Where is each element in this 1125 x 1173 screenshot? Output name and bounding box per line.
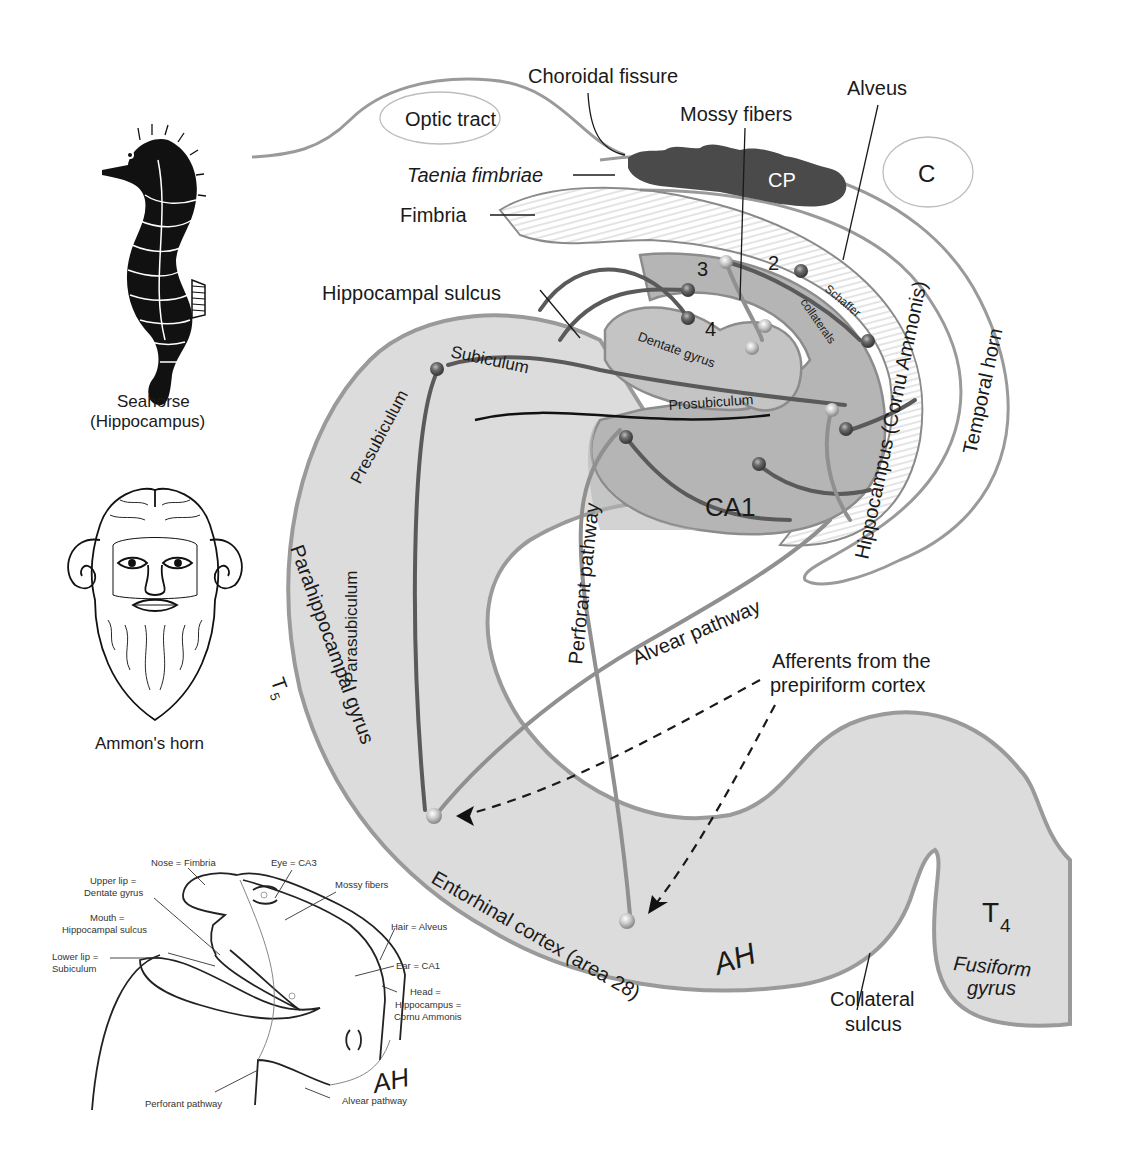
label-alvear-pathway: Alvear pathway <box>629 595 763 669</box>
face-label-alvear: Alvear pathway <box>342 1095 407 1106</box>
face-sketch-drawing: AH <box>92 873 412 1110</box>
ammon-face-icon <box>68 489 242 720</box>
face-label-head-3: Cornu Ammonis <box>394 1011 462 1022</box>
hippocampus-diagram: Choroidal fissure Optic tract Mossy fibe… <box>0 0 1125 1173</box>
face-label-mouth-1: Mouth = <box>90 912 125 923</box>
label-afferents-1: Afferents from the <box>772 650 931 672</box>
label-c: C <box>918 160 935 187</box>
label-temporal-horn: Temporal horn <box>958 326 1006 456</box>
face-label-mossy: Mossy fibers <box>335 879 389 890</box>
seahorse-caption-1: Seahorse <box>117 392 190 411</box>
label-ca1: CA1 <box>705 492 756 522</box>
label-field-3: 3 <box>697 258 708 280</box>
label-field-2: 2 <box>768 252 779 274</box>
svg-text:5: 5 <box>267 691 284 703</box>
label-mossy-fibers: Mossy fibers <box>680 103 792 125</box>
face-sketch-inset: AH Nose = Fimbria Eye = CA3 Upper lip = … <box>52 857 462 1110</box>
label-hippocampal-sulcus: Hippocampal sulcus <box>322 282 501 304</box>
seahorse-icon <box>102 124 206 405</box>
face-label-head-2: Hippocampus = <box>395 999 462 1010</box>
label-afferents-2: prepiriform cortex <box>770 674 926 696</box>
label-taenia-fimbriae: Taenia fimbriae <box>407 164 543 186</box>
face-label-lower-lip-1: Lower lip = <box>52 951 99 962</box>
label-choroidal-fissure: Choroidal fissure <box>528 65 678 87</box>
face-label-upper-lip-2: Dentate gyrus <box>84 887 143 898</box>
label-alveus: Alveus <box>847 77 907 99</box>
label-t5: T 5 <box>262 674 294 702</box>
face-label-nose: Nose = Fimbria <box>151 857 216 868</box>
face-label-mouth-2: Hippocampal sulcus <box>62 924 147 935</box>
svg-text:4: 4 <box>1000 915 1011 936</box>
face-label-head-1: Head = <box>410 986 441 997</box>
ammon-caption: Ammon's horn <box>95 734 204 753</box>
face-sketch-ah: AH <box>368 1062 412 1099</box>
face-label-hair: Hair = Alveus <box>391 921 447 932</box>
label-perforant-pathway: Perforant pathway <box>564 502 603 666</box>
ammon-horn-inset: Ammon's horn <box>68 489 242 753</box>
label-collateral-1: Collateral <box>830 988 914 1010</box>
seahorse-inset: Seahorse (Hippocampus) <box>90 124 206 431</box>
label-optic-tract: Optic tract <box>405 108 497 130</box>
svg-text:T: T <box>982 897 999 928</box>
seahorse-caption-2: (Hippocampus) <box>90 412 205 431</box>
face-label-ear: Ear = CA1 <box>396 960 440 971</box>
label-cp: CP <box>768 169 796 191</box>
label-field-4: 4 <box>705 318 716 340</box>
label-fusiform-2: gyrus <box>967 977 1016 999</box>
face-label-lower-lip-2: Subiculum <box>52 963 96 974</box>
label-collateral-2: sulcus <box>845 1013 902 1035</box>
label-fimbria: Fimbria <box>400 204 468 226</box>
face-label-eye: Eye = CA3 <box>271 857 317 868</box>
face-label-upper-lip-1: Upper lip = <box>90 875 137 886</box>
face-label-perforant: Perforant pathway <box>145 1098 222 1109</box>
